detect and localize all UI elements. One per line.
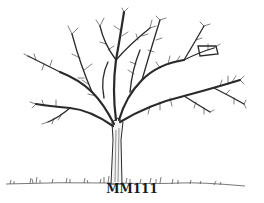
tree-illustration [0, 0, 264, 203]
tree-branches [24, 8, 246, 126]
figure-caption: MM111 [0, 182, 264, 196]
tree-trunk [111, 118, 123, 184]
